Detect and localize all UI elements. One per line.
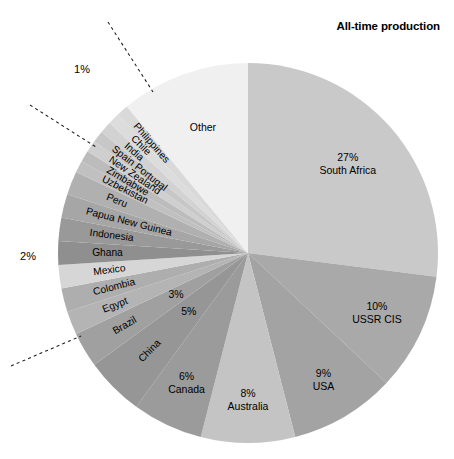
slice-percent-label: 3%	[168, 288, 183, 300]
slice-label: USA	[313, 380, 335, 392]
slice-percent-label: 27%	[337, 151, 358, 163]
chart-figure: All-time production 27%South Africa10%US…	[0, 0, 454, 459]
slice-percent-label: 6%	[179, 370, 194, 382]
pie-chart: 27%South Africa10%USSR CIS9%USA8%Austral…	[0, 0, 454, 459]
slice-percent-label: 8%	[240, 387, 255, 399]
slice-percent-label: 10%	[366, 300, 387, 312]
callout-leader-line	[108, 22, 153, 92]
slice-percent-label: 5%	[181, 305, 196, 317]
slice-label: USSR CIS	[352, 313, 402, 325]
slice-label: Canada	[168, 383, 205, 395]
slice-label: Other	[190, 121, 217, 133]
callout-percent-label: 1%	[74, 63, 90, 75]
slice-percent-label: 9%	[316, 367, 331, 379]
slice-label: Ghana	[92, 247, 123, 258]
callout-leader-line	[11, 336, 81, 366]
slice-label: South Africa	[319, 164, 376, 176]
callout-leader-line	[30, 105, 96, 147]
callout-percent-label: 2%	[20, 250, 36, 262]
slice-label: Australia	[228, 400, 269, 412]
